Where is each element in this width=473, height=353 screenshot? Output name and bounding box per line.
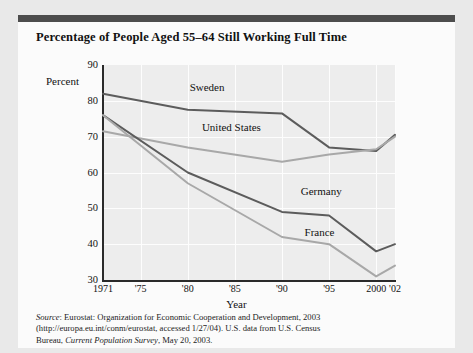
source-publication: Current Population Survey <box>65 335 158 345</box>
x-axis-line <box>102 280 396 282</box>
gridline-vertical <box>395 65 396 280</box>
x-tick-label: '75 <box>135 283 147 294</box>
series-label-sweden: Sweden <box>190 81 225 93</box>
series-label-united-states: United States <box>202 121 261 133</box>
y-tick-label: 90 <box>74 60 98 71</box>
x-tick-label: '80 <box>182 283 194 294</box>
series-line-germany <box>103 115 395 251</box>
y-tick-label: 40 <box>74 239 98 250</box>
y-axis-title: Percent <box>46 75 79 87</box>
x-tick-label: '85 <box>229 283 241 294</box>
series-label-germany: Germany <box>301 185 342 197</box>
screenshot-root: Percentage of People Aged 55–64 Still Wo… <box>0 0 473 353</box>
source-note: Source: Eurostat: Organization for Econo… <box>36 312 436 346</box>
source-line-2: (http://europa.eu.int/conm/eurostat, acc… <box>36 323 320 333</box>
x-tick-label: '02 <box>389 283 401 294</box>
source-label: Source <box>36 312 60 322</box>
x-tick-label: 1971 <box>93 283 113 294</box>
series-line-united-states <box>103 131 395 161</box>
chart-container: Percent Year 90807060504030 1971'75'80'8… <box>18 15 455 348</box>
x-tick-label: '90 <box>276 283 288 294</box>
x-axis-title: Year <box>18 298 455 310</box>
source-line-3-pre: Bureau, <box>36 335 65 345</box>
y-tick-label: 50 <box>74 203 98 214</box>
x-tick-label: '95 <box>323 283 335 294</box>
series-label-france: France <box>305 226 335 238</box>
y-tick-label: 70 <box>74 132 98 143</box>
y-tick-label: 60 <box>74 168 98 179</box>
source-line-1: : Eurostat: Organization for Economic Co… <box>60 312 321 322</box>
y-tick-label: 80 <box>74 96 98 107</box>
series-lines <box>103 65 395 280</box>
source-line-3-post: , May 20, 2003. <box>158 335 212 345</box>
x-tick-label: 2000 <box>366 283 386 294</box>
